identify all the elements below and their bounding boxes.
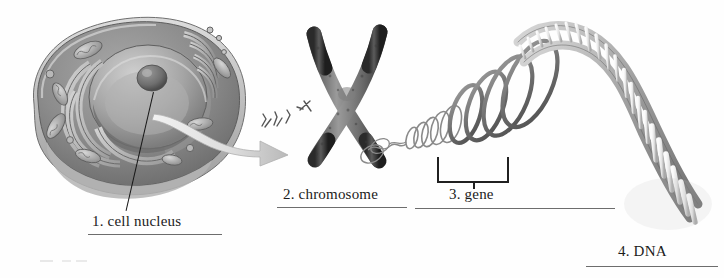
figure-cell-to-dna: 1. cell nucleus 2. chromosome 3. gene 4.… (0, 0, 724, 278)
label-gene-rule (415, 208, 615, 209)
thin-strand (368, 144, 406, 150)
label-dna-rule (586, 266, 718, 267)
dna-svg (368, 8, 720, 253)
label-cell-nucleus: 1. cell nucleus (92, 213, 181, 230)
label-chromosome: 2. chromosome (283, 186, 378, 203)
dna-illustration (368, 8, 720, 253)
helix-shadow (624, 178, 712, 230)
label-dna: 4. DNA (618, 243, 667, 260)
gene-bracket (437, 157, 509, 183)
label-cell-nucleus-rule (88, 234, 222, 235)
label-chromosome-rule (277, 207, 407, 208)
label-gene: 3. gene (449, 186, 494, 203)
nucleolus (137, 65, 167, 91)
page-smudge (40, 258, 92, 265)
